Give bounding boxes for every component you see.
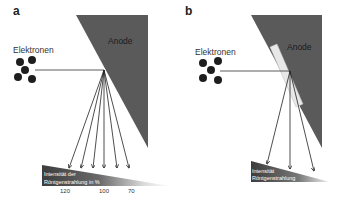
wedge-label-line1: Intensität xyxy=(252,168,275,174)
diagram-canvas: a Anode Elektronen Intensität der Röntge… xyxy=(0,0,337,198)
tick-70: 70 xyxy=(128,188,135,194)
anode-label: Anode xyxy=(287,42,312,52)
anode-label: Anode xyxy=(108,36,133,46)
wedge-label-line2: Röntgenstrahlung xyxy=(252,175,295,181)
tick-100: 100 xyxy=(99,188,110,194)
panel-label-b: b xyxy=(185,4,192,18)
wedge-label-line1: Intensität der xyxy=(44,171,76,177)
panel-b: b Anode Elektronen Intensität Röntgenstr… xyxy=(185,4,330,182)
electrons-label: Elektronen xyxy=(13,45,54,55)
wedge-label-line2: Röntgenstrahlung in % xyxy=(44,179,100,185)
electrons-label: Elektronen xyxy=(195,47,236,57)
panel-label-a: a xyxy=(13,4,20,18)
electron-cluster xyxy=(14,56,36,83)
electron-cluster xyxy=(199,57,222,84)
tick-120: 120 xyxy=(60,188,71,194)
panel-a: a Anode Elektronen Intensität der Röntge… xyxy=(13,4,170,194)
